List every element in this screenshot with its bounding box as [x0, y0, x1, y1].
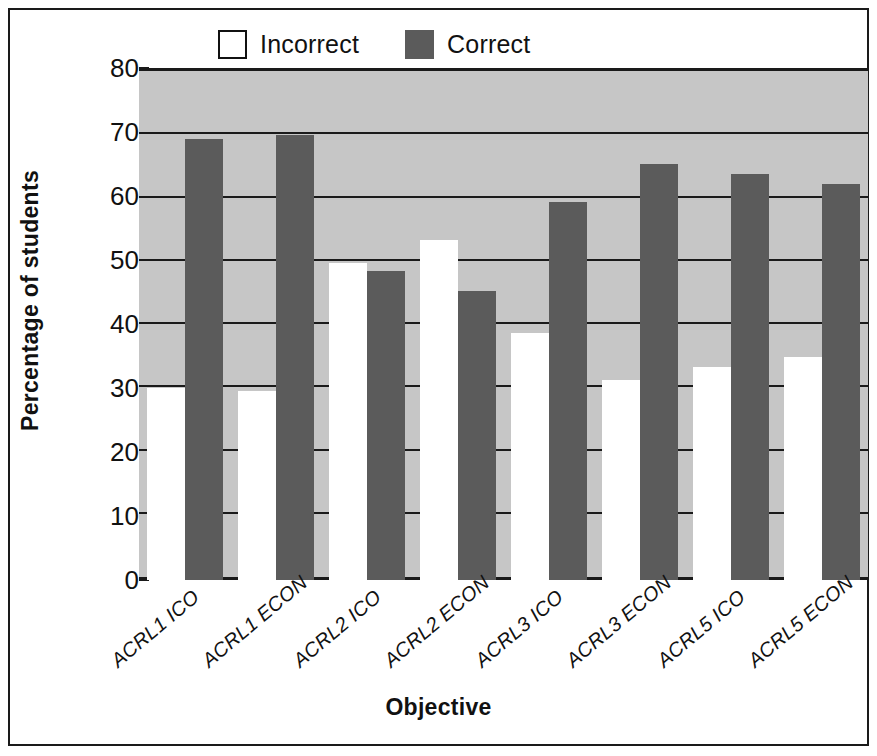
bar-incorrect[interactable]: [602, 380, 640, 580]
bar-group: [321, 68, 412, 580]
bar-series-container: [139, 68, 868, 580]
bar-incorrect[interactable]: [238, 391, 276, 580]
bar-correct[interactable]: [549, 202, 587, 580]
y-tick-label: 30: [77, 373, 139, 404]
chart-legend: Incorrect Correct: [218, 26, 530, 62]
x-tick-label: ACRL1 ICO: [106, 585, 203, 672]
bar-incorrect[interactable]: [693, 367, 731, 580]
bar-group: [686, 68, 777, 580]
bar-correct[interactable]: [276, 135, 314, 580]
bar-correct[interactable]: [731, 174, 769, 580]
bar-group: [139, 68, 230, 580]
y-tick-label: 40: [77, 309, 139, 340]
y-tick-label: 60: [77, 181, 139, 212]
y-axis-title: Percentage of students: [0, 0, 60, 600]
legend-item-correct[interactable]: Correct: [405, 30, 530, 59]
x-tick: ACRL1 ECON: [230, 580, 321, 690]
y-tick-label: 0: [77, 565, 139, 596]
bar-correct[interactable]: [367, 271, 405, 580]
bar-group: [412, 68, 503, 580]
x-tick: ACRL1 ICO: [139, 580, 230, 690]
plot-area: [139, 68, 868, 580]
bar-incorrect[interactable]: [329, 263, 367, 580]
y-tick-label: 20: [77, 437, 139, 468]
bar-incorrect[interactable]: [420, 240, 458, 580]
bar-correct[interactable]: [822, 184, 860, 580]
bar-group: [595, 68, 686, 580]
legend-swatch-correct-icon: [405, 30, 434, 59]
bar-correct[interactable]: [185, 139, 223, 580]
legend-label-correct: Correct: [447, 30, 530, 59]
x-axis-ticks: ACRL1 ICOACRL1 ECONACRL2 ICOACRL2 ECONAC…: [139, 580, 868, 690]
y-tick-label: 10: [77, 501, 139, 532]
bar-incorrect[interactable]: [511, 333, 549, 580]
x-axis-title: Objective: [0, 694, 877, 721]
y-tick-label: 50: [77, 245, 139, 276]
y-axis-ticks: 01020304050607080: [60, 68, 139, 580]
x-tick: ACRL2 ECON: [412, 580, 503, 690]
x-tick: ACRL3 ICO: [504, 580, 595, 690]
x-tick: ACRL3 ECON: [595, 580, 686, 690]
legend-item-incorrect[interactable]: Incorrect: [218, 30, 359, 59]
x-tick: ACRL5 ICO: [686, 580, 777, 690]
legend-label-incorrect: Incorrect: [260, 30, 359, 59]
y-tick-label: 70: [77, 117, 139, 148]
bar-group: [504, 68, 595, 580]
legend-swatch-incorrect-icon: [218, 30, 247, 59]
bar-correct[interactable]: [458, 291, 496, 580]
x-tick: ACRL5 ECON: [777, 580, 868, 690]
y-axis-title-text: Percentage of students: [17, 170, 44, 431]
bar-incorrect[interactable]: [147, 388, 185, 580]
y-tick-label: 80: [77, 53, 139, 84]
bar-group: [777, 68, 868, 580]
bar-correct[interactable]: [640, 164, 678, 580]
bar-group: [230, 68, 321, 580]
bar-incorrect[interactable]: [784, 357, 822, 580]
x-tick: ACRL2 ICO: [321, 580, 412, 690]
chart-figure: Incorrect Correct Percentage of students…: [0, 0, 877, 756]
